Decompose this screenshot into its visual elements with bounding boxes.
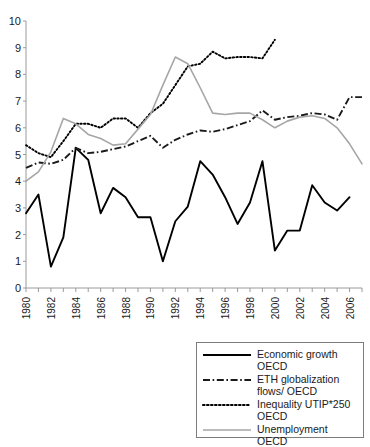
x-tick-label: 1990 — [145, 297, 156, 320]
x-tick-label: 1988 — [121, 297, 132, 320]
x-tick-label: 2006 — [345, 297, 356, 320]
x-tick-label: 2002 — [295, 297, 306, 320]
x-tick-label: 1996 — [220, 297, 231, 320]
legend-swatch-icon — [201, 373, 253, 387]
y-axis: 012345678910 — [9, 15, 26, 294]
legend-item[interactable]: Inequality UTIP*250 OECD — [201, 398, 359, 422]
legend-swatch-icon — [201, 423, 253, 437]
x-tick-label: 1980 — [21, 297, 32, 320]
y-tick-label: 4 — [15, 175, 21, 187]
y-tick-label: 5 — [15, 149, 21, 161]
x-tick-label: 1984 — [71, 297, 82, 320]
x-tick-label: 2004 — [320, 297, 331, 320]
series-line-economic-growth-oecd — [26, 148, 350, 267]
legend-label: ETH globalization flows/ OECD — [257, 373, 359, 397]
x-tick-label: 1982 — [46, 297, 57, 320]
y-tick-label: 10 — [9, 15, 21, 27]
y-tick-label: 8 — [15, 68, 21, 80]
series-lines — [26, 40, 362, 267]
y-tick-label: 3 — [15, 202, 21, 214]
legend-item[interactable]: Unemployment OECD — [201, 423, 359, 447]
series-line-inequality-utip-250-oecd — [26, 40, 275, 157]
y-tick-label: 1 — [15, 255, 21, 267]
y-tick-label: 7 — [15, 95, 21, 107]
legend-swatch-icon — [201, 398, 253, 412]
series-line-eth-globalization-flows-oecd — [26, 97, 362, 168]
x-tick-label: 1994 — [195, 297, 206, 320]
legend-label: Unemployment OECD — [257, 423, 359, 447]
legend-swatch-icon — [201, 348, 253, 362]
legend-label: Inequality UTIP*250 OECD — [257, 398, 359, 422]
chart-legend: Economic growth OECDETH globalization fl… — [196, 342, 364, 438]
legend-item[interactable]: Economic growth OECD — [201, 348, 359, 372]
x-tick-label: 1986 — [96, 297, 107, 320]
y-tick-label: 0 — [15, 282, 21, 294]
x-tick-label: 1992 — [170, 297, 181, 320]
series-line-unemployment-oecd — [26, 57, 362, 181]
line-chart-plot: 012345678910 198019821984198619881990199… — [0, 0, 370, 340]
x-tick-label: 2000 — [270, 297, 281, 320]
legend-item[interactable]: ETH globalization flows/ OECD — [201, 373, 359, 397]
y-tick-label: 6 — [15, 122, 21, 134]
y-tick-label: 2 — [15, 229, 21, 241]
y-tick-label: 9 — [15, 42, 21, 54]
x-axis: 1980198219841986198819901992199419961998… — [21, 288, 362, 319]
x-tick-label: 1998 — [245, 297, 256, 320]
legend-label: Economic growth OECD — [257, 348, 359, 372]
